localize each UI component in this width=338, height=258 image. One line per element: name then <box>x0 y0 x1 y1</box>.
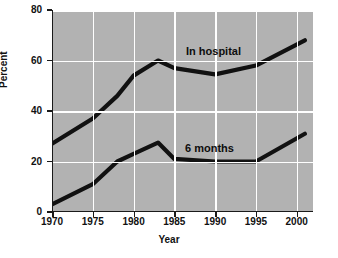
xtick-label-1975: 1975 <box>73 216 113 227</box>
xtick-label-1970: 1970 <box>32 216 72 227</box>
series-annotation-6-months: 6 months <box>185 142 234 154</box>
series-annotation-in-hospital: In hospital <box>186 45 241 57</box>
gridline-vertical-1975 <box>93 10 95 212</box>
xtick-label-1980: 1980 <box>114 216 154 227</box>
xtick-label-1985: 1985 <box>154 216 194 227</box>
gridline-horizontal-40 <box>52 111 313 113</box>
ytick-label-40: 40 <box>18 106 42 116</box>
line-chart: In hospital 6 months 80 60 40 20 0 Perce… <box>0 0 338 258</box>
ytick-mark-20 <box>47 161 52 163</box>
line-in-hospital <box>52 40 305 144</box>
ytick-mark-80 <box>47 9 52 11</box>
ytick-label-20: 20 <box>18 157 42 167</box>
y-axis-title: Percent <box>0 51 9 88</box>
x-axis-title: Year <box>0 234 338 245</box>
xtick-label-1990: 1990 <box>195 216 235 227</box>
gridline-horizontal-20 <box>52 162 313 164</box>
gridline-vertical-2000 <box>297 10 299 212</box>
ytick-label-60: 60 <box>18 56 42 66</box>
gridline-horizontal-80 <box>52 10 313 12</box>
xtick-label-2000: 2000 <box>277 216 317 227</box>
gridline-horizontal-60 <box>52 61 313 63</box>
ytick-label-80: 80 <box>18 5 42 15</box>
xtick-label-1995: 1995 <box>236 216 276 227</box>
ytick-mark-60 <box>47 60 52 62</box>
gridline-vertical-1985 <box>174 10 176 212</box>
line-6-months <box>52 134 305 205</box>
plot-area: In hospital 6 months <box>52 10 313 212</box>
ytick-mark-40 <box>47 110 52 112</box>
gridline-vertical-1995 <box>256 10 258 212</box>
gridline-vertical-1990 <box>215 10 217 212</box>
gridline-vertical-1980 <box>134 10 136 212</box>
